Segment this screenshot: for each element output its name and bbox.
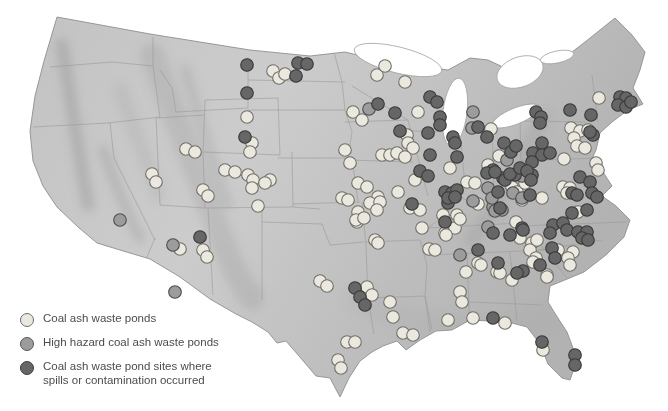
pond-dot <box>460 266 473 279</box>
spill-dot <box>504 229 517 242</box>
pond-dot <box>358 212 371 225</box>
pond-dot <box>321 280 334 293</box>
pond-dot <box>444 162 457 175</box>
legend: Coal ash waste ponds High hazard coal as… <box>20 312 219 396</box>
hazard-dot <box>467 106 480 119</box>
spill-dot <box>591 191 604 204</box>
spill-dot <box>492 186 505 199</box>
spill-dot <box>439 216 452 229</box>
pond-dot <box>349 336 362 349</box>
pond-dot <box>475 259 488 272</box>
coal-ash-map-figure: Coal ash waste ponds High hazard coal as… <box>0 0 668 411</box>
spill-dot <box>581 204 594 217</box>
spill-dot <box>569 359 582 372</box>
spill-dot <box>472 244 485 257</box>
spill-dot <box>534 259 547 272</box>
spill-dot <box>584 126 597 139</box>
pond-dot <box>399 76 412 89</box>
hazard-dot <box>454 249 467 262</box>
legend-item-hazard: High hazard coal ash waste ponds <box>20 336 219 351</box>
pond-dot <box>564 259 577 272</box>
legend-label-spill-line1: Coal ash waste pond sites where <box>43 360 212 372</box>
pond-dot <box>531 234 544 247</box>
spill-dot <box>359 299 372 312</box>
spill-dot <box>584 176 597 189</box>
pond-dot <box>429 244 442 257</box>
pond-dot <box>339 144 352 157</box>
pond-dot <box>541 271 554 284</box>
spill-dot <box>194 231 207 244</box>
spill-dot <box>472 121 485 134</box>
pond-dot <box>456 296 469 309</box>
pond-dot <box>150 176 163 189</box>
pond-dot <box>399 151 412 164</box>
spill-dot <box>301 58 314 71</box>
spill-dot <box>525 174 538 187</box>
spill-dot <box>372 98 385 111</box>
pond-dot <box>241 111 254 124</box>
pond-dot <box>189 146 202 159</box>
spill-dot <box>544 227 557 240</box>
spill-dot <box>424 149 437 162</box>
spill-dot <box>549 252 562 265</box>
pond-dot <box>536 192 549 205</box>
hazard-dot <box>114 214 127 227</box>
spill-dot <box>422 170 435 183</box>
pond-dot <box>579 142 592 155</box>
hazard-dot <box>169 286 182 299</box>
pond-dot <box>342 194 355 207</box>
spill-dot <box>561 224 574 237</box>
spill-dot <box>239 131 252 144</box>
hazard-swatch-icon <box>20 337 34 351</box>
spill-dot <box>534 117 547 130</box>
pond-dot <box>467 312 480 325</box>
spill-dot <box>510 140 523 153</box>
pond-dot <box>384 296 397 309</box>
pond-dot <box>592 164 605 177</box>
pond-dot <box>412 106 425 119</box>
spill-dot <box>431 96 444 109</box>
pond-swatch-icon <box>20 313 34 327</box>
pond-dot <box>407 329 420 342</box>
legend-item-spill: Coal ash waste pond sites where spills o… <box>20 360 219 387</box>
pond-dot <box>454 213 467 226</box>
spill-dot <box>494 202 507 215</box>
pond-dot <box>371 204 384 217</box>
pond-dot <box>356 114 369 127</box>
spill-dot <box>451 151 464 164</box>
spill-dot <box>241 87 254 100</box>
pond-dot <box>499 317 512 330</box>
spill-dot <box>389 107 402 120</box>
spill-dot <box>625 96 638 109</box>
pond-dot <box>252 200 265 213</box>
legend-label-spill-line2: spills or contamination occurred <box>43 374 205 386</box>
pond-dot <box>244 146 257 159</box>
pond-dot <box>387 311 400 324</box>
pond-dot <box>593 92 606 105</box>
legend-label-pond: Coal ash waste ponds <box>43 312 156 326</box>
legend-item-pond: Coal ash waste ponds <box>20 312 219 327</box>
hazard-dot <box>167 239 180 252</box>
pond-dot <box>344 157 357 170</box>
spill-dot <box>481 131 494 144</box>
spill-dot <box>406 198 419 211</box>
spill-dot <box>449 191 462 204</box>
spill-dot <box>290 70 303 83</box>
pond-dot <box>379 60 392 73</box>
legend-label-spill: Coal ash waste pond sites where spills o… <box>43 360 212 387</box>
spill-dot <box>487 312 500 325</box>
pond-dot <box>361 181 374 194</box>
spill-dot <box>564 104 577 117</box>
spill-dot <box>449 137 462 150</box>
spill-dot <box>517 224 530 237</box>
pond-dot <box>372 237 385 250</box>
pond-dot <box>201 251 214 264</box>
pond-dot <box>279 68 292 81</box>
hazard-dot <box>467 195 480 208</box>
spill-dot <box>394 125 407 138</box>
spill-dot <box>582 234 595 247</box>
pond-dot <box>246 182 259 195</box>
spill-dot <box>487 227 500 240</box>
pond-dot <box>440 229 453 242</box>
spill-dot <box>511 267 524 280</box>
